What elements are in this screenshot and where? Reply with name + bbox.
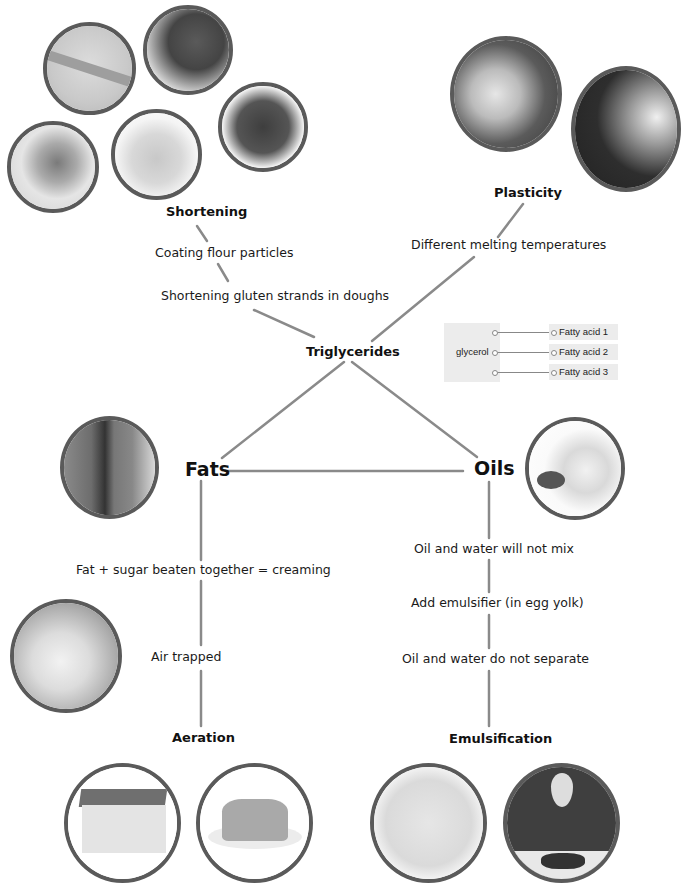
glycerol-bond-dot	[492, 330, 498, 336]
creaming-bowl-photo	[10, 599, 122, 713]
fatty-acid-bond-dot	[551, 350, 557, 356]
fatty-acid-1: Fatty acid 1	[549, 324, 618, 340]
oil-jug-photo	[525, 417, 625, 520]
fatty-acid-3: Fatty acid 3	[549, 364, 618, 380]
piping-cupcakes-photo	[571, 66, 681, 192]
fruit-bread-photo	[143, 5, 233, 95]
node-shortening: Shortening	[166, 204, 247, 219]
fatty-acid-bond-dot	[551, 330, 557, 336]
fat-block-photo	[60, 416, 159, 519]
node-oils: Oils	[474, 457, 515, 479]
label-add-emulsifier: Add emulsifier (in egg yolk)	[411, 595, 584, 610]
label-melting-temps: Different melting temperatures	[411, 237, 606, 252]
node-aeration: Aeration	[172, 730, 235, 745]
fatty-acid-bond-dot	[551, 370, 557, 376]
buttered-bread-photo	[450, 36, 562, 152]
label-not-separate: Oil and water do not separate	[402, 651, 589, 666]
fatty-acid-2: Fatty acid 2	[549, 344, 618, 360]
node-emulsification: Emulsification	[449, 731, 552, 746]
crumble-pot-photo	[7, 121, 99, 213]
glycerol-bond-dot	[492, 350, 498, 356]
glycerol-label: glycerol	[456, 346, 489, 357]
sponge-cake-photo	[64, 763, 181, 883]
pastry-dough-photo	[43, 22, 136, 115]
glycerol-bond-dot	[492, 370, 498, 376]
label-air-trapped: Air trapped	[151, 649, 221, 664]
label-coating-flour: Coating flour particles	[155, 245, 293, 260]
label-creaming: Fat + sugar beaten together = creaming	[76, 562, 331, 577]
shortbread-fingers-photo	[111, 109, 202, 200]
label-not-mix: Oil and water will not mix	[414, 541, 574, 556]
node-plasticity: Plasticity	[494, 185, 562, 200]
label-shortening-gluten: Shortening gluten strands in doughs	[161, 288, 389, 303]
pouring-cream-photo	[503, 763, 620, 883]
node-triglycerides: Triglycerides	[306, 344, 400, 359]
mayonnaise-bowl-photo	[370, 763, 487, 883]
node-fats: Fats	[185, 458, 230, 480]
chocolate-chip-cookies-photo	[218, 82, 308, 172]
sponge-pudding-photo	[196, 763, 313, 883]
